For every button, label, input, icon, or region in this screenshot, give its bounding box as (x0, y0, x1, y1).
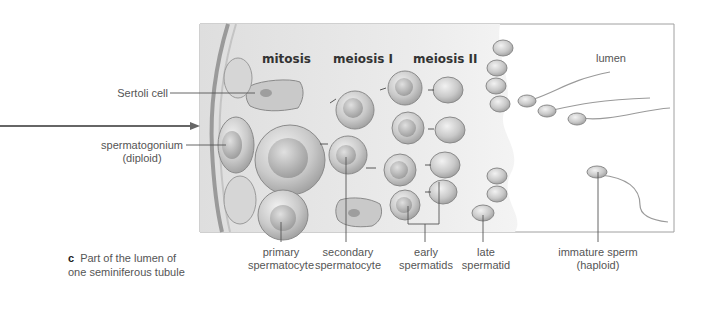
sperm-head (518, 95, 536, 107)
label-late-line2: spermatid (462, 259, 510, 272)
caption-line1: Part of the lumen of (80, 252, 176, 264)
stage-title-meiosis-1: meiosis I (333, 52, 393, 66)
caption-line2: one seminiferous tubule (68, 265, 185, 279)
label-early-line1: early (399, 246, 453, 259)
label-primary-line2: spermatocyte (248, 259, 314, 272)
basal-cell (224, 176, 256, 224)
label-spermatogonium-line1: spermatogonium (101, 139, 183, 152)
panel-letter: c (68, 252, 74, 264)
label-immature-sperm: immature sperm (haploid) (558, 246, 637, 272)
label-sertoli-cell: Sertoli cell (104, 87, 168, 100)
sertoli-cell (246, 80, 303, 111)
label-secondary-spermatocyte: secondary spermatocyte (315, 246, 381, 272)
sperm-head (587, 166, 607, 178)
label-secondary-line1: secondary (315, 246, 381, 259)
label-late-spermatid: late spermatid (462, 246, 510, 272)
label-late-line1: late (462, 246, 510, 259)
label-immature-line1: immature sperm (558, 246, 637, 259)
basal-cell (224, 58, 252, 98)
seminiferous-tubule-diagram: mitosis meiosis I meiosis II lumen Serto… (0, 0, 721, 314)
lumen-label: lumen (596, 52, 626, 64)
label-early-spermatids: early spermatids (399, 246, 453, 272)
sperm-head (568, 113, 586, 125)
sperm-head (538, 105, 556, 117)
stage-title-meiosis-2: meiosis II (413, 52, 478, 66)
entry-arrow (0, 122, 200, 130)
label-spermatogonium: spermatogonium (diploid) (101, 139, 183, 165)
label-early-line2: spermatids (399, 259, 453, 272)
label-primary-line1: primary (248, 246, 314, 259)
label-secondary-line2: spermatocyte (315, 259, 381, 272)
stage-title-mitosis: mitosis (262, 52, 311, 66)
label-spermatogonium-line2: (diploid) (101, 152, 183, 165)
label-immature-line2: (haploid) (558, 259, 637, 272)
label-primary-spermatocyte: primary spermatocyte (248, 246, 314, 272)
figure-caption: cPart of the lumen of one seminiferous t… (68, 251, 185, 279)
